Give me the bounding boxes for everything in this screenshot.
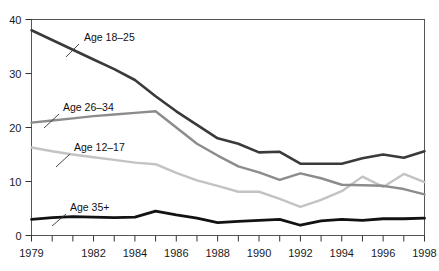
y-tick-label: 10 [9,176,21,188]
annotation-age-18-25-label: Age 18–25 [84,31,135,43]
x-tick-label: 1996 [371,247,395,259]
x-tick-label: 1986 [164,247,188,259]
series-line-age-35- [32,211,425,225]
y-tick-label: 30 [9,68,21,80]
annotation-age-12-17-leader [56,154,70,167]
x-axis-ticks [32,236,425,242]
x-tick-label: 1992 [288,247,312,259]
y-axis-tick-labels: 010203040 [9,14,21,242]
annotation-age-26-34-label: Age 26–34 [63,101,114,113]
x-tick-label: 1988 [205,247,229,259]
x-tick-label: 1990 [247,247,271,259]
y-tick-label: 0 [15,230,21,242]
y-axis-ticks [26,20,32,236]
x-tick-label: 1979 [19,247,43,259]
x-tick-label: 1982 [81,247,105,259]
series-line-age-12-17 [32,147,425,206]
x-tick-label: 1998 [412,247,436,259]
series-annotations: Age 18–25Age 26–34Age 12–17Age 35+ [44,31,135,226]
y-tick-label: 20 [9,122,21,134]
annotation-age-12-17-label: Age 12–17 [74,141,125,153]
x-tick-label: 1984 [123,247,147,259]
line-chart: Age 18–25Age 26–34Age 12–17Age 35+ 01020… [0,0,439,271]
y-tick-label: 40 [9,14,21,26]
x-tick-label: 1994 [330,247,354,259]
annotation-age-35-plus-leader [52,214,66,226]
series-lines [32,30,425,225]
chart-canvas: Age 18–25Age 26–34Age 12–17Age 35+ 01020… [0,0,439,271]
annotation-age-35-plus-label: Age 35+ [70,201,109,213]
x-axis-tick-labels: 1979198219841986198819901992199419961998 [19,247,436,259]
